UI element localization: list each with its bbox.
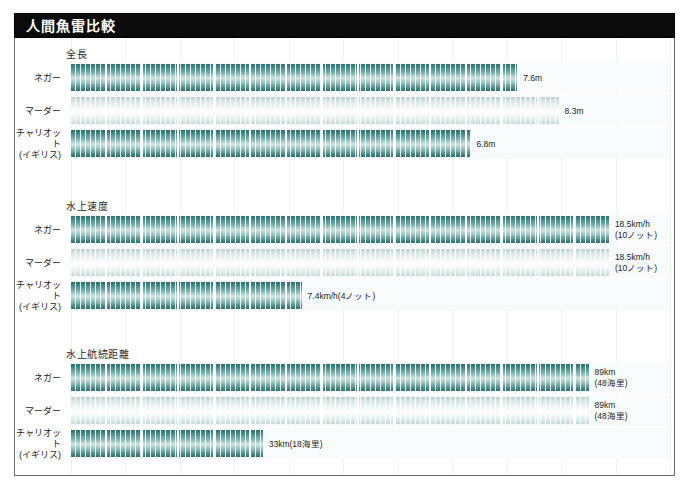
- bar: [71, 216, 609, 243]
- bar-track: 6.8m: [71, 130, 670, 157]
- bar-value-label: 7.6m: [517, 72, 542, 83]
- bar-value-label: 6.8m: [471, 138, 496, 149]
- bar-track: 89km (48海里): [71, 397, 670, 424]
- bar-value-label: 89km (48海里): [589, 367, 628, 389]
- page-title: 人間魚雷比較: [15, 19, 116, 33]
- chart-title-bar: 人間魚雷比較: [14, 13, 675, 38]
- bar-row: ネガー7.6m: [15, 61, 674, 94]
- bar-track: 7.6m: [71, 64, 670, 91]
- bar-value-label: 8.3m: [559, 105, 584, 116]
- section-title: 水上航続距離: [66, 346, 129, 361]
- bar: [71, 282, 302, 309]
- bar-row: マーダー18.5km/h (10ノット): [15, 246, 674, 279]
- bar-track: 18.5km/h (10ノット): [71, 216, 670, 243]
- bar-row: マーダー89km (48海里): [15, 394, 674, 427]
- bar-row-label: チャリオット (イギリス): [15, 279, 65, 312]
- bar-value-label: 33km(18海里): [263, 438, 323, 449]
- bar-track: 18.5km/h (10ノット): [71, 249, 670, 276]
- bar-row: チャリオット (イギリス)33km(18海里): [15, 427, 674, 460]
- bar-row-label: ネガー: [15, 72, 65, 83]
- bar-track: 7.4km/h(4ノット): [71, 282, 670, 309]
- bar-row-label: マーダー: [15, 257, 65, 268]
- bar: [71, 397, 589, 424]
- bar: [71, 130, 471, 157]
- section-rows: ネガー18.5km/h (10ノット)マーダー18.5km/h (10ノット)チ…: [15, 213, 674, 312]
- bar-row-label: ネガー: [15, 224, 65, 235]
- section-rows: ネガー89km (48海里)マーダー89km (48海里)チャリオット (イギリ…: [15, 361, 674, 460]
- bar-row: マーダー8.3m: [15, 94, 674, 127]
- section-title: 全長: [66, 46, 87, 61]
- bar-track: 8.3m: [71, 97, 670, 124]
- chart-frame: 全長ネガー7.6mマーダー8.3mチャリオット (イギリス)6.8m水上速度ネガ…: [14, 38, 675, 476]
- section-rows: ネガー7.6mマーダー8.3mチャリオット (イギリス)6.8m: [15, 61, 674, 160]
- bar: [71, 364, 589, 391]
- bar-value-label: 7.4km/h(4ノット): [302, 290, 376, 301]
- bar-value-label: 18.5km/h (10ノット): [609, 219, 657, 241]
- bar-row: チャリオット (イギリス)7.4km/h(4ノット): [15, 279, 674, 312]
- bar-value-label: 18.5km/h (10ノット): [609, 252, 657, 274]
- section-title: 水上速度: [66, 198, 108, 213]
- bar-row-label: マーダー: [15, 105, 65, 116]
- bar-track: 89km (48海里): [71, 364, 670, 391]
- bar-row: チャリオット (イギリス)6.8m: [15, 127, 674, 160]
- bar-row: ネガー89km (48海里): [15, 361, 674, 394]
- bar: [71, 249, 609, 276]
- bar-row-label: チャリオット (イギリス): [15, 127, 65, 160]
- bar-row-label: チャリオット (イギリス): [15, 427, 65, 460]
- bar-row: ネガー18.5km/h (10ノット): [15, 213, 674, 246]
- bar: [71, 97, 559, 124]
- bar-row-label: ネガー: [15, 372, 65, 383]
- bar-value-label: 89km (48海里): [589, 400, 628, 422]
- bar-track: 33km(18海里): [71, 430, 670, 457]
- bar-row-label: マーダー: [15, 405, 65, 416]
- bar: [71, 430, 263, 457]
- bar: [71, 64, 517, 91]
